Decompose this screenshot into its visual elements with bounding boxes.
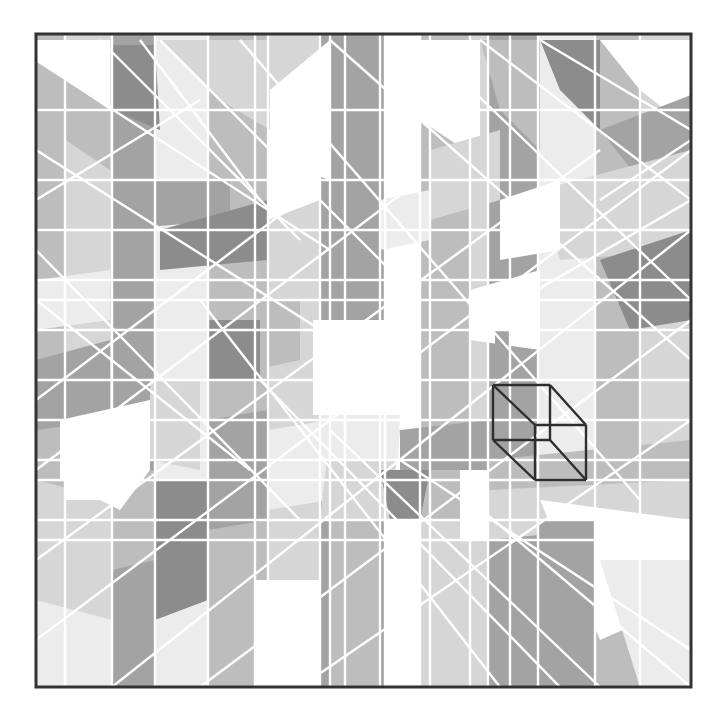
shard: [420, 520, 470, 687]
shard: [380, 190, 430, 250]
polygon-field: [36, 34, 691, 687]
artwork-canvas: [0, 0, 725, 723]
shard: [255, 580, 320, 687]
shard: [538, 520, 595, 687]
shard: [155, 480, 208, 620]
